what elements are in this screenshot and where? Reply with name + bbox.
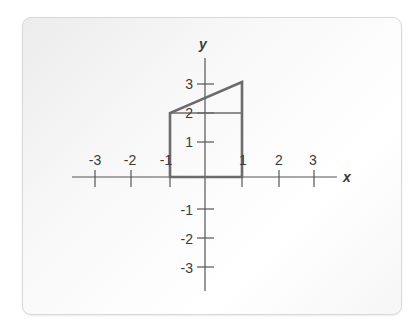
y-tick-label: -2 <box>181 231 194 247</box>
coordinate-plane: -3 -2 -1 1 2 3 3 2 1 -1 -2 -3 x y <box>0 0 420 332</box>
y-axis-label: y <box>198 36 208 52</box>
y-tick-label: -1 <box>181 202 194 218</box>
x-tick-label: 3 <box>309 152 317 168</box>
x-tick-label: 2 <box>275 152 283 168</box>
x-tick-label: -2 <box>124 152 137 168</box>
x-tick-label: -3 <box>89 152 102 168</box>
y-tick-label: -3 <box>181 260 194 276</box>
y-tick-label: 2 <box>185 105 193 121</box>
x-axis-label: x <box>342 169 352 185</box>
composite-shape-outline <box>170 82 242 177</box>
y-tick-label: 3 <box>185 76 193 92</box>
x-tick-label: -1 <box>160 152 173 168</box>
x-tick-label: 1 <box>239 152 247 168</box>
y-tick-label: 1 <box>185 134 193 150</box>
